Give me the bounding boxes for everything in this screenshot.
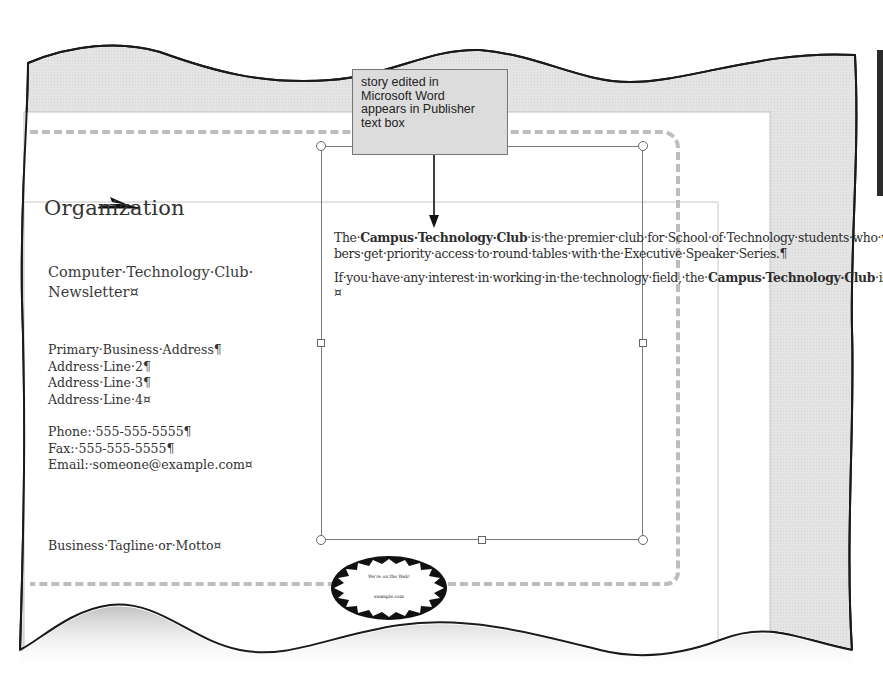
- callout-line-4: text box: [361, 117, 499, 131]
- address-line-1: Primary·Business·Address¶: [48, 342, 298, 359]
- resize-handle-right[interactable]: [639, 339, 647, 347]
- resize-handle-bottom-left[interactable]: [316, 535, 326, 545]
- email-text: Email:·someone@example.com¤: [48, 457, 298, 474]
- story-p1-bold: Campus·Technology·Club: [360, 230, 527, 245]
- callout-box: story edited in Microsoft Word appears i…: [352, 69, 508, 155]
- story-paragraph-1: The·Campus·Technology·Club·is·the·premie…: [334, 230, 640, 262]
- contact-block[interactable]: Phone:·555-555-5555¶ Fax:·555-555-5555¶ …: [48, 424, 298, 474]
- story-p2-bold: Campus·Technology·Club: [708, 270, 875, 285]
- address-line-3: Address·Line·3¶: [48, 375, 298, 392]
- address-line-2: Address·Line·2¶: [48, 359, 298, 376]
- newsletter-title-line1: Computer·Technology·Club·: [48, 262, 288, 282]
- phone-text: Phone:·555-555-5555¶: [48, 424, 298, 441]
- address-block[interactable]: Primary·Business·Address¶ Address·Line·2…: [48, 342, 298, 408]
- business-tagline[interactable]: Business·Tagline·or·Motto¤: [48, 538, 221, 553]
- story-text[interactable]: The·Campus·Technology·Club·is·the·premie…: [334, 230, 640, 309]
- resize-handle-bottom[interactable]: [478, 536, 486, 544]
- callout-line-1: story edited in: [361, 76, 499, 90]
- story-p2-pre: If·you·have·any·interest·in·working·in·t…: [334, 270, 708, 285]
- organization-name[interactable]: Organization: [44, 196, 185, 220]
- resize-handle-top-right[interactable]: [638, 141, 648, 151]
- newsletter-title-line2: Newsletter¤: [48, 282, 288, 302]
- story-paragraph-2: If·you·have·any·interest·in·working·in·t…: [334, 270, 640, 302]
- starburst-shape-icon[interactable]: [330, 555, 448, 621]
- address-line-4: Address·Line·4¤: [48, 392, 298, 409]
- starburst-line-2: example.com: [330, 594, 448, 599]
- newsletter-title[interactable]: Computer·Technology·Club· Newsletter¤: [48, 262, 288, 302]
- fax-text: Fax:·555-555-5555¶: [48, 441, 298, 458]
- story-text-box[interactable]: [321, 146, 643, 540]
- resize-handle-bottom-right[interactable]: [638, 535, 648, 545]
- story-p1-pre: The·: [334, 230, 360, 245]
- resize-handle-left[interactable]: [317, 339, 325, 347]
- starburst-line-1: We're on the Web!: [330, 574, 448, 579]
- callout-line-3: appears in Publisher: [361, 103, 499, 117]
- resize-handle-top-left[interactable]: [316, 141, 326, 151]
- callout-arrow-icon: [428, 155, 440, 229]
- right-edge-tab: [877, 50, 883, 196]
- callout-line-2: Microsoft Word: [361, 90, 499, 104]
